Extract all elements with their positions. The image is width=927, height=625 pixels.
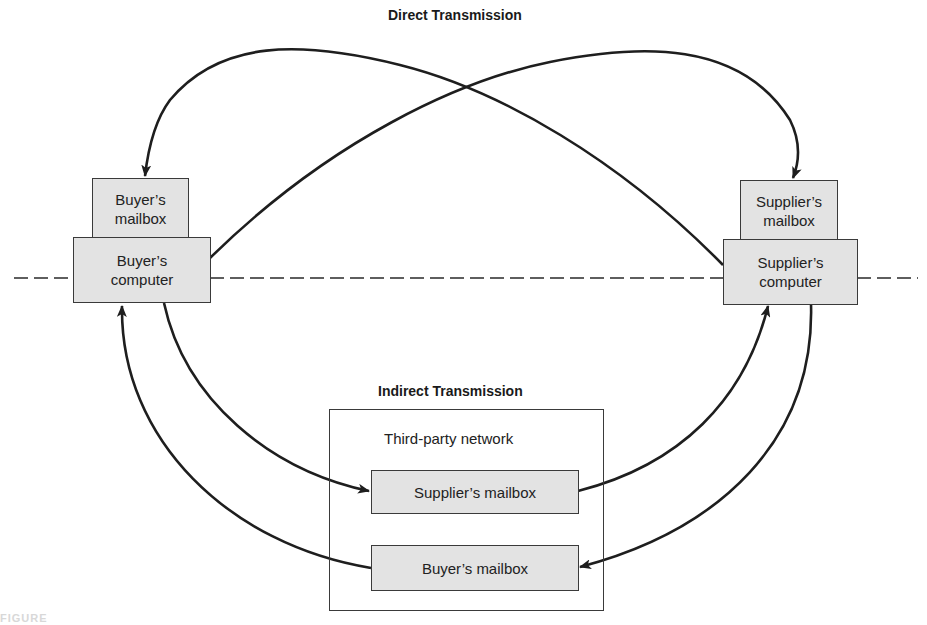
third-party-network-label: Third-party network	[384, 430, 513, 447]
supplier-computer-label-line2: computer	[757, 272, 823, 291]
figure-caption-fragment: FIGURE	[0, 612, 48, 624]
network-buyer-mailbox-node: Buyer’s mailbox	[371, 545, 579, 591]
buyer-computer-label-line2: computer	[111, 270, 174, 289]
arrow-supplier-to-network-buyer-mailbox	[580, 304, 811, 567]
buyer-mailbox-node: Buyer’s mailbox	[92, 178, 189, 239]
buyer-computer-label-line1: Buyer’s	[111, 251, 174, 270]
buyer-computer-node: Buyer’s computer	[73, 237, 211, 303]
arrow-buyer-to-supplier-mailbox-direct	[210, 51, 798, 258]
buyer-mailbox-label-line1: Buyer’s	[115, 190, 167, 209]
indirect-transmission-title: Indirect Transmission	[378, 383, 523, 399]
arrow-network-supplier-mailbox-to-supplier	[578, 306, 768, 491]
network-supplier-mailbox-node: Supplier’s mailbox	[371, 470, 579, 514]
supplier-mailbox-label-line2: mailbox	[756, 211, 822, 230]
direct-transmission-title: Direct Transmission	[388, 7, 522, 23]
supplier-mailbox-label-line1: Supplier’s	[756, 192, 822, 211]
buyer-mailbox-label-line2: mailbox	[115, 209, 167, 228]
supplier-mailbox-node: Supplier’s mailbox	[740, 180, 838, 241]
supplier-computer-node: Supplier’s computer	[723, 239, 858, 305]
supplier-computer-label-line1: Supplier’s	[757, 253, 823, 272]
arrow-supplier-to-buyer-mailbox-direct	[145, 49, 723, 265]
